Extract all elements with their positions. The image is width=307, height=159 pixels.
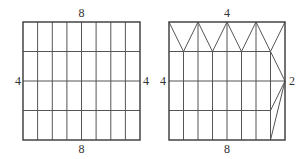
right-grid-lines [169, 22, 285, 140]
left-square: 8 8 4 4 [15, 6, 149, 156]
right-bottom-label: 8 [224, 142, 230, 156]
diagram-canvas: 8 8 4 4 4 8 4 2 [0, 0, 307, 159]
left-grid-lines [23, 22, 140, 140]
right-top-label: 4 [224, 6, 230, 20]
right-right-label: 2 [289, 74, 295, 88]
right-left-label: 4 [160, 74, 166, 88]
right-square: 4 8 4 2 [160, 6, 295, 156]
left-right-label: 4 [143, 74, 149, 88]
left-left-label: 4 [15, 74, 21, 88]
left-top-label: 8 [79, 6, 85, 20]
left-bottom-label: 8 [79, 142, 85, 156]
